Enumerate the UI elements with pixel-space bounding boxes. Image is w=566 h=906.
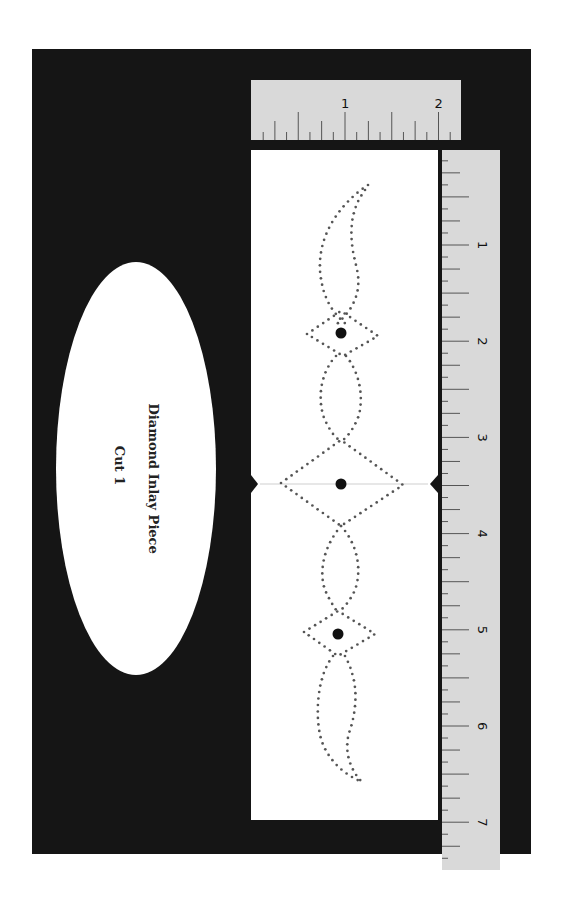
vertical-ruler-ticks	[442, 161, 469, 858]
svg-text:1: 1	[341, 96, 349, 111]
svg-text:2: 2	[435, 96, 443, 111]
svg-text:2: 2	[475, 337, 490, 345]
pattern-overlay: 12 1234567	[0, 0, 566, 906]
horizontal-ruler-labels: 12	[341, 96, 443, 111]
horizontal-ruler-ticks	[263, 112, 450, 140]
vertical-ruler-labels: 1234567	[475, 241, 490, 826]
svg-text:4: 4	[475, 530, 490, 538]
hole-marker-top	[336, 328, 347, 339]
svg-text:3: 3	[475, 433, 490, 441]
fold-notch-left	[251, 475, 258, 493]
svg-text:6: 6	[475, 722, 490, 730]
fold-notch-right	[430, 475, 438, 493]
svg-text:7: 7	[475, 818, 490, 826]
hole-marker-center	[336, 479, 347, 490]
svg-text:1: 1	[475, 241, 490, 249]
hole-marker-bottom	[333, 629, 344, 640]
svg-text:5: 5	[475, 626, 490, 634]
